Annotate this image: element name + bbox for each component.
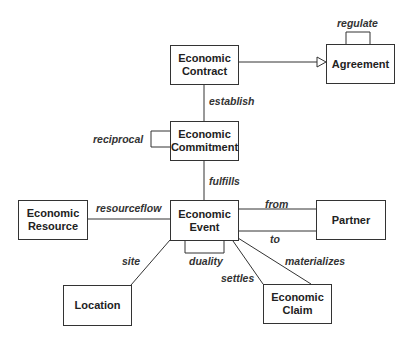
label-settles: settles bbox=[221, 272, 254, 284]
label-from: from bbox=[265, 198, 288, 210]
label-resourceflow: resourceflow bbox=[96, 202, 161, 214]
label-duality: duality bbox=[189, 255, 223, 267]
class-name: Agreement bbox=[332, 58, 389, 71]
class-location: Location bbox=[63, 285, 132, 326]
class-economic-commitment: EconomicCommitment bbox=[170, 121, 239, 161]
class-economic-resource: EconomicResource bbox=[18, 200, 88, 240]
class-name: Economic bbox=[178, 128, 231, 140]
class-name: Location bbox=[75, 299, 121, 312]
generalization-arrowhead-icon bbox=[317, 57, 326, 67]
label-reciprocal: reciprocal bbox=[93, 133, 143, 145]
label-establish: establish bbox=[209, 95, 255, 107]
class-name: Contract bbox=[182, 65, 227, 77]
class-name: Commitment bbox=[171, 141, 238, 153]
class-name: Economic bbox=[27, 207, 80, 219]
label-regulate: regulate bbox=[337, 17, 378, 29]
duality-loop bbox=[185, 240, 224, 253]
regulate-loop bbox=[346, 32, 370, 44]
label-site: site bbox=[122, 255, 140, 267]
class-partner: Partner bbox=[316, 200, 386, 240]
label-materializes: materializes bbox=[285, 255, 345, 267]
class-economic-contract: EconomicContract bbox=[170, 45, 239, 85]
label-to: to bbox=[270, 233, 280, 245]
class-name: Economic bbox=[178, 208, 231, 220]
label-fulfills: fulfills bbox=[209, 175, 240, 187]
class-name: Resource bbox=[28, 220, 78, 232]
class-name: Event bbox=[190, 221, 220, 233]
class-name: Economic bbox=[271, 291, 324, 303]
class-name: Economic bbox=[178, 52, 231, 64]
class-name: Claim bbox=[283, 304, 313, 316]
class-economic-claim: EconomicClaim bbox=[263, 284, 332, 324]
class-agreement: Agreement bbox=[326, 44, 395, 84]
class-economic-event: EconomicEvent bbox=[170, 200, 239, 241]
class-name: Partner bbox=[332, 214, 371, 227]
reciprocal-loop bbox=[151, 131, 170, 147]
